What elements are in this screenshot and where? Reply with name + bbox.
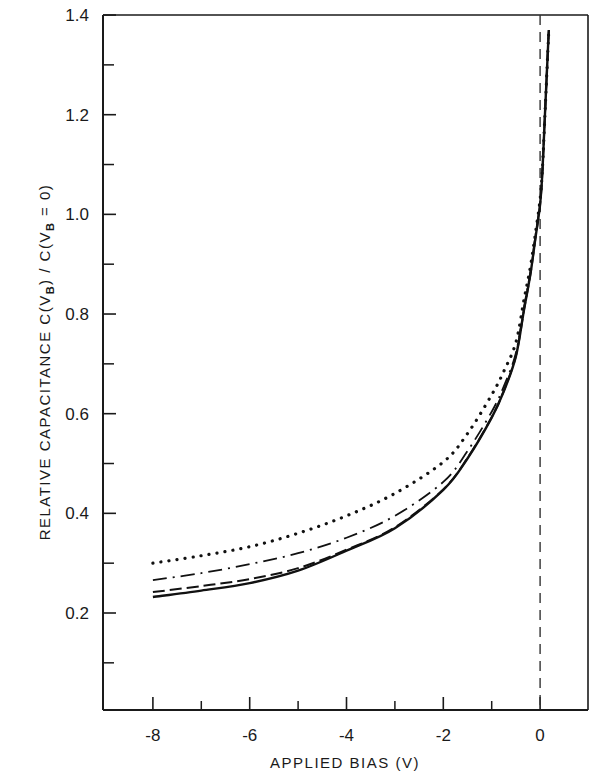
y-axis-title-suffix: = 0) xyxy=(36,184,53,222)
y-tick-label: 1.0 xyxy=(65,205,89,224)
y-axis-title-sub1: B xyxy=(44,285,56,294)
x-tick-label: -8 xyxy=(145,726,160,745)
series-line-dashed xyxy=(153,30,549,592)
series-line-solid xyxy=(153,30,549,597)
y-axis-title: RELATIVE CAPACITANCE C(VB) / C(VB = 0) xyxy=(36,184,56,541)
axis-tick-labels: -8-6-4-200.20.40.60.81.01.21.4 xyxy=(65,6,544,745)
y-tick-label: 0.6 xyxy=(65,405,89,424)
series-group xyxy=(153,30,549,597)
x-axis-title: APPLIED BIAS (V) xyxy=(270,754,420,771)
x-tick-label: -2 xyxy=(436,726,451,745)
y-tick-label: 0.8 xyxy=(65,305,89,324)
y-axis-title-sub2: B xyxy=(44,222,56,231)
capacitance-chart: -8-6-4-200.20.40.60.81.01.21.4 APPLIED B… xyxy=(0,0,606,781)
series-line-dotted xyxy=(153,30,549,563)
y-tick-label: 1.2 xyxy=(65,106,89,125)
series-line-dash-dot xyxy=(153,30,549,580)
y-axis-title-middle: ) / C(V xyxy=(36,231,53,285)
y-tick-label: 0.4 xyxy=(65,504,89,523)
y-axis-title-prefix: RELATIVE CAPACITANCE C(V xyxy=(36,294,53,540)
y-tick-label: 1.4 xyxy=(65,6,89,25)
axis-ticks xyxy=(103,15,540,710)
y-tick-label: 0.2 xyxy=(65,604,89,623)
x-tick-label: -4 xyxy=(339,726,354,745)
x-tick-label: 0 xyxy=(535,726,544,745)
x-tick-label: -6 xyxy=(242,726,257,745)
